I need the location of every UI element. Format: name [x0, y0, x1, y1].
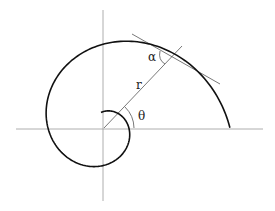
radius-label: r [136, 79, 142, 91]
alpha-arc [160, 51, 165, 64]
spiral-diagram: α r θ [0, 0, 275, 211]
log-spiral-curve [46, 41, 230, 166]
theta-arc [125, 107, 134, 128]
diagram-canvas [0, 0, 275, 211]
theta-label: θ [138, 110, 145, 122]
alpha-label: α [148, 51, 156, 63]
tangent-line [132, 34, 220, 84]
